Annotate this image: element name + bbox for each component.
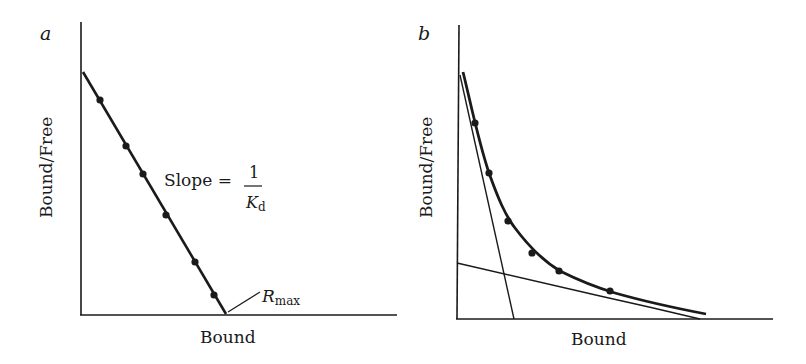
data-point: [162, 211, 169, 218]
data-point: [606, 287, 613, 294]
panel-b-y-axis: [457, 25, 459, 319]
binding-curve: [463, 72, 706, 314]
scatchard-figure: a Bound/Free Bound Slope = 1 Kd Rmax b B…: [0, 0, 806, 364]
slope-denominator: Kd: [245, 193, 266, 214]
data-point: [528, 249, 535, 256]
panel-a-regression-line: [83, 72, 226, 314]
panel-a-y-label: Bound/Free: [36, 117, 56, 218]
data-point: [485, 169, 492, 176]
data-point: [191, 258, 198, 265]
rmax-label: Rmax: [261, 286, 300, 308]
high-affinity-line: [460, 75, 514, 319]
data-point: [210, 291, 217, 298]
panel-b-data-points: [471, 119, 613, 294]
rmax-leader-line: [228, 292, 260, 312]
panel-b-y-label: Bound/Free: [416, 117, 436, 218]
data-point: [471, 119, 478, 126]
data-point: [96, 96, 103, 103]
data-point: [504, 217, 511, 224]
data-point: [555, 267, 562, 274]
slope-label: Slope =: [164, 170, 232, 190]
panel-b: b Bound/Free Bound: [416, 22, 773, 349]
panel-b-x-label: Bound: [571, 329, 627, 349]
panel-a-x-label: Bound: [200, 327, 256, 347]
low-affinity-line: [457, 263, 700, 319]
panel-a: a Bound/Free Bound Slope = 1 Kd Rmax: [36, 22, 397, 347]
data-point: [139, 170, 146, 177]
panel-a-letter: a: [40, 22, 51, 44]
panel-b-letter: b: [418, 22, 430, 44]
data-point: [122, 142, 129, 149]
slope-numerator: 1: [249, 163, 259, 182]
